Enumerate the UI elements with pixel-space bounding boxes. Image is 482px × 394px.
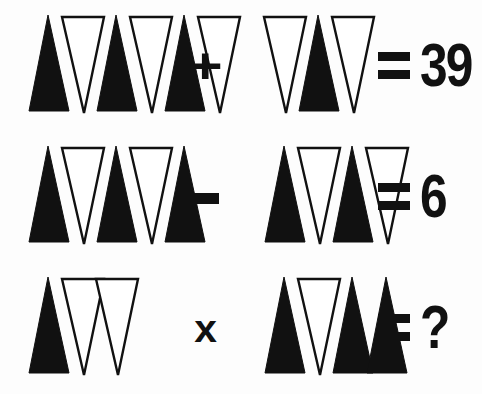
equation-row-3: x ? [0, 262, 482, 393]
equals-bar-bottom [378, 332, 410, 341]
equation-row-2: 6 [0, 131, 482, 262]
triangle-group-row3-left [26, 276, 140, 376]
result-value-row-2: 6 [420, 169, 446, 223]
operator-minus-glyph [191, 193, 219, 204]
white-inverted-triangle-icon [94, 276, 140, 376]
equals-sign-row-1 [378, 52, 410, 79]
result-row-2: 6 [378, 131, 482, 262]
equals-bar-top [378, 52, 410, 61]
equals-sign-row-3 [378, 314, 410, 341]
equation-row-1: + 39 [0, 0, 482, 131]
equals-bar-top [378, 314, 410, 323]
triangle-group-row1-right [262, 14, 376, 114]
equals-bar-bottom [378, 70, 410, 79]
operator-plus: + [175, 0, 235, 131]
operator-times-glyph: x [194, 308, 216, 347]
operator-minus [175, 131, 235, 262]
result-value-row-3: ? [420, 300, 449, 354]
white-inverted-triangle-icon [330, 14, 376, 114]
result-row-1: 39 [378, 0, 482, 131]
result-row-3: ? [378, 262, 482, 393]
operator-plus-glyph: + [188, 41, 222, 90]
equals-bar-top [378, 183, 410, 192]
result-value-row-1: 39 [420, 38, 472, 92]
equals-sign-row-2 [378, 183, 410, 210]
equals-bar-bottom [378, 201, 410, 210]
operator-times: x [175, 262, 235, 393]
puzzle-page: + 39 6 x [0, 0, 482, 394]
